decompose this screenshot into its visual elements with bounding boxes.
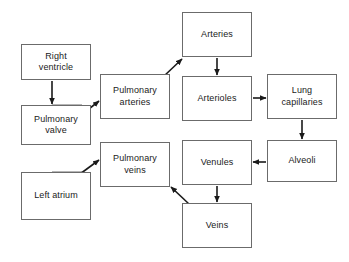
node-lung-capillaries[interactable]: Lung capillaries bbox=[267, 74, 337, 119]
node-venules[interactable]: Venules bbox=[182, 140, 252, 185]
node-right-ventricle[interactable]: Right ventricle bbox=[21, 44, 91, 80]
node-label: Left atrium bbox=[32, 190, 80, 202]
node-label: Lung capillaries bbox=[279, 85, 324, 108]
node-label: Veins bbox=[204, 220, 231, 232]
node-alveoli[interactable]: Alveoli bbox=[267, 140, 337, 182]
node-pulmonary-veins[interactable]: Pulmonary veins bbox=[100, 142, 170, 187]
node-label: Pulmonary arteries bbox=[111, 85, 159, 108]
node-label: Pulmonary veins bbox=[111, 153, 159, 176]
node-label: Pulmonary valve bbox=[32, 114, 80, 137]
node-label: Arterioles bbox=[195, 93, 238, 105]
node-label: Alveoli bbox=[286, 155, 317, 167]
node-pulmonary-valve[interactable]: Pulmonary valve bbox=[21, 105, 91, 145]
node-left-atrium[interactable]: Left atrium bbox=[21, 172, 91, 220]
pulmonary-circulation-diagram: Right ventricle Pulmonary valve Left atr… bbox=[0, 0, 349, 262]
node-arteries[interactable]: Arteries bbox=[182, 12, 252, 57]
node-arterioles[interactable]: Arterioles bbox=[182, 76, 252, 121]
arrow-veins-to-pulmonary-veins bbox=[171, 187, 189, 204]
node-label: Venules bbox=[199, 157, 236, 169]
node-label: Right ventricle bbox=[37, 51, 75, 74]
node-label: Arteries bbox=[199, 29, 235, 41]
node-veins[interactable]: Veins bbox=[182, 203, 252, 248]
node-pulmonary-arteries[interactable]: Pulmonary arteries bbox=[100, 74, 170, 119]
